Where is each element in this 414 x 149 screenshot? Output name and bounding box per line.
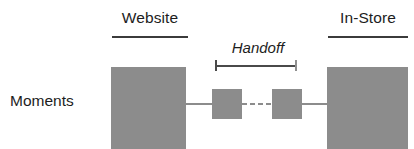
column-header-in-store: In-Store <box>328 10 408 26</box>
diagram-canvas: Website In-Store Moments Handoff <box>0 0 414 149</box>
column-rule-in-store <box>328 36 408 38</box>
connector-handoff-to-in-store <box>302 103 327 105</box>
column-header-website: Website <box>112 10 188 26</box>
bracket-cap-right <box>295 60 297 71</box>
handoff-label: Handoff <box>213 40 303 55</box>
node-handoff-left-moment <box>212 89 242 119</box>
connector-handoff-gap-dashed <box>242 103 272 105</box>
handoff-bracket <box>215 60 297 71</box>
bracket-bar <box>215 65 297 67</box>
node-in-store-moment <box>327 67 408 149</box>
node-website-moment <box>111 67 186 149</box>
row-label-moments: Moments <box>10 93 74 109</box>
column-rule-website <box>112 36 188 38</box>
node-handoff-right-moment <box>272 89 302 119</box>
connector-website-to-handoff <box>186 103 212 105</box>
